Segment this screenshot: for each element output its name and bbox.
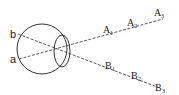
label-B3: B 3 [155,82,165,94]
svg-text:B: B [131,70,138,81]
svg-text:3: 3 [162,88,165,94]
svg-text:2: 2 [134,23,137,29]
svg-text:1: 1 [110,30,113,36]
label-B2: B 2 [131,70,141,82]
label-b: b [10,28,16,40]
label-A1: A 1 [103,24,113,36]
svg-text:3: 3 [161,13,164,19]
svg-text:2: 2 [138,76,141,82]
label-a: a [10,53,17,65]
label-B1: B 1 [105,60,115,72]
ray-a-to-A [19,19,163,59]
svg-text:B: B [105,60,112,71]
svg-text:1: 1 [112,66,115,72]
svg-text:B: B [155,82,162,93]
label-A2: A 2 [127,17,137,29]
eye-diagram: b a A 1 A 2 A 3 B 1 B 2 B 3 [0,0,179,95]
label-A3: A 3 [154,7,164,19]
